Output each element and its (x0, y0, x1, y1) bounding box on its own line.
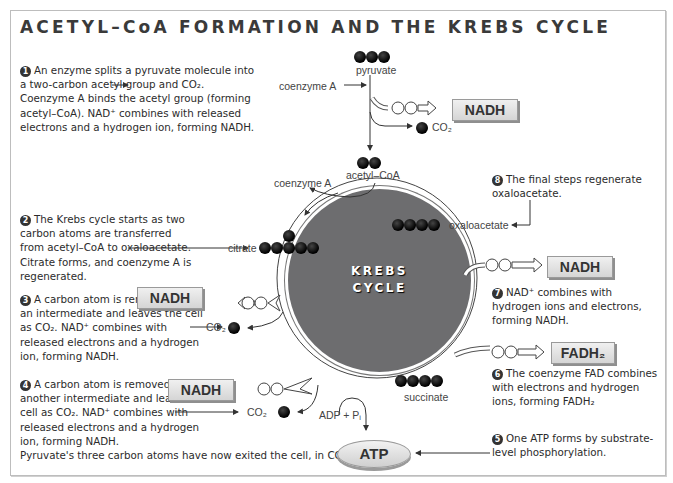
succinate-molecule (395, 375, 443, 387)
electron-pair-top (392, 102, 417, 114)
co2-step3-label: CO₂ (206, 321, 226, 333)
electron-pair-6 (492, 346, 517, 358)
oxaloacetate-label: oxaloacetate (449, 219, 509, 231)
nadh-box-step1: NADH (452, 99, 518, 121)
citrate-label: citrate (228, 242, 257, 254)
co2-top-label: CO₂ (432, 121, 452, 133)
coenzyme-a-in-label: coenzyme A (279, 80, 336, 92)
acetyl-coa-molecule (357, 157, 381, 169)
electron-pair-7 (486, 259, 511, 271)
nadh-box-step3: NADH (137, 287, 203, 309)
co2-molecule-top (416, 122, 428, 134)
pyruvate-label: pyruvate (356, 64, 396, 76)
nadh-box-step4: NADH (168, 379, 234, 401)
co2-molecule-4 (278, 406, 290, 418)
citrate-molecule (259, 230, 319, 254)
adp-pi-label: ADP + Pᵢ (319, 409, 361, 421)
fadh2-box-step6: FADH₂ (551, 342, 615, 364)
pyruvate-molecule (354, 51, 390, 63)
coenzyme-a-out-label: coenzyme A (274, 177, 331, 189)
co2-molecule-3 (228, 322, 240, 334)
electron-pair-3 (242, 297, 267, 309)
electron-pair-4 (258, 383, 283, 395)
oxaloacetate-molecule (392, 219, 440, 231)
acetyl-coa-label: acetyl–CoA (346, 169, 400, 181)
nadh-box-step7: NADH (547, 256, 613, 278)
succinate-label: succinate (404, 391, 448, 403)
atp-disc: ATP (337, 440, 411, 468)
co2-step4-label: CO₂ (247, 406, 267, 418)
